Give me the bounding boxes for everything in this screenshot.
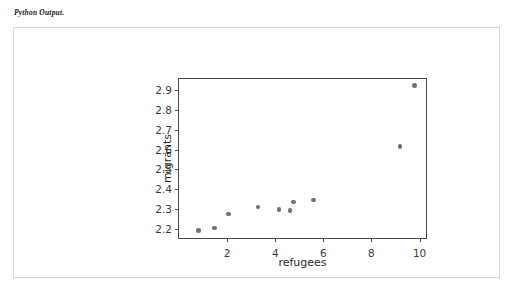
data-point	[398, 144, 403, 149]
data-point	[288, 208, 293, 213]
x-tick-mark	[275, 238, 276, 242]
scatter-plot-area	[179, 79, 426, 238]
x-tick-mark	[420, 238, 421, 242]
y-tick-mark	[175, 90, 179, 91]
data-point	[226, 212, 231, 217]
data-point	[311, 198, 316, 203]
y-tick-mark	[175, 130, 179, 131]
python-output-card: migrants 2.22.32.42.52.62.72.82.9 246810…	[13, 27, 500, 278]
y-tick-label: 2.6	[155, 144, 172, 156]
x-axis-label: refugees	[178, 256, 427, 269]
y-tick-mark	[175, 169, 179, 170]
data-point	[256, 205, 261, 210]
y-tick-label: 2.8	[155, 104, 172, 116]
plot-axes-frame: 2.22.32.42.52.62.72.82.9 246810	[178, 78, 427, 239]
y-tick-label: 2.9	[155, 84, 172, 96]
data-point	[291, 200, 296, 205]
data-point	[196, 228, 201, 233]
y-tick-label: 2.5	[155, 163, 172, 175]
matplotlib-figure: migrants 2.22.32.42.52.62.72.82.9 246810…	[14, 28, 501, 279]
y-tick-mark	[175, 229, 179, 230]
data-point	[212, 226, 217, 231]
screenshot-root: Python Output. migrants 2.22.32.42.52.62…	[0, 0, 514, 290]
data-point	[277, 207, 282, 212]
x-tick-mark	[371, 238, 372, 242]
x-tick-mark	[227, 238, 228, 242]
x-tick-mark	[323, 238, 324, 242]
y-axis-label-text: migrants	[161, 134, 174, 183]
python-output-caption: Python Output.	[14, 8, 64, 17]
y-tick-label: 2.2	[155, 223, 172, 235]
data-point	[412, 83, 417, 88]
y-tick-label: 2.3	[155, 203, 172, 215]
y-tick-label: 2.7	[155, 124, 172, 136]
y-tick-mark	[175, 209, 179, 210]
y-tick-label: 2.4	[155, 183, 172, 195]
y-tick-mark	[175, 150, 179, 151]
y-tick-mark	[175, 110, 179, 111]
y-tick-mark	[175, 189, 179, 190]
